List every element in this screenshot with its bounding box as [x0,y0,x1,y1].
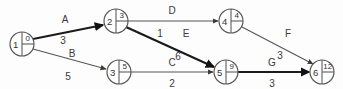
edge-labels-layer: A3B5D1E6C2F3G3 [60,5,291,89]
edge-label-f: F [285,28,291,39]
node-number-5: 5 [217,67,222,78]
edge-label-e: E [183,28,190,39]
edge-label-d: D [168,5,175,16]
edge-weight-c: 2 [169,78,175,89]
node-4: 44 [219,9,243,33]
node-number-6: 6 [313,67,318,78]
node-value-3: 5 [123,62,128,71]
graph-canvas: 1023354459612 A3B5D1E6C2F3G3 [0,0,343,89]
edge-label-b: B [69,48,76,59]
edge-label-c: C [168,57,175,68]
node-value-6: 12 [323,62,332,71]
edge-weight-f: 3 [277,50,283,61]
edge-label-g: G [268,57,276,68]
node-number-2: 2 [107,16,112,27]
edge-weight-e: 6 [175,51,181,62]
node-value-4: 4 [235,11,240,20]
node-number-4: 4 [222,16,227,27]
node-value-1: 0 [26,34,31,43]
node-5: 59 [214,60,238,84]
node-number-1: 1 [13,39,18,50]
node-2: 23 [104,9,128,33]
node-value-5: 9 [230,62,235,71]
node-1: 10 [10,32,34,56]
node-value-2: 3 [120,11,125,20]
edge-weight-a: 3 [60,35,66,46]
edge-weight-d: 1 [157,28,163,39]
edge-weight-b: 5 [65,71,71,82]
edge-a-arrow [33,25,103,39]
node-number-3: 3 [110,67,115,78]
activity-network-diagram: 1023354459612 A3B5D1E6C2F3G3 [0,0,343,89]
edge-weight-g: 3 [269,78,275,89]
node-3: 35 [107,60,131,84]
node-6: 612 [310,60,334,84]
edge-label-a: A [62,14,69,25]
